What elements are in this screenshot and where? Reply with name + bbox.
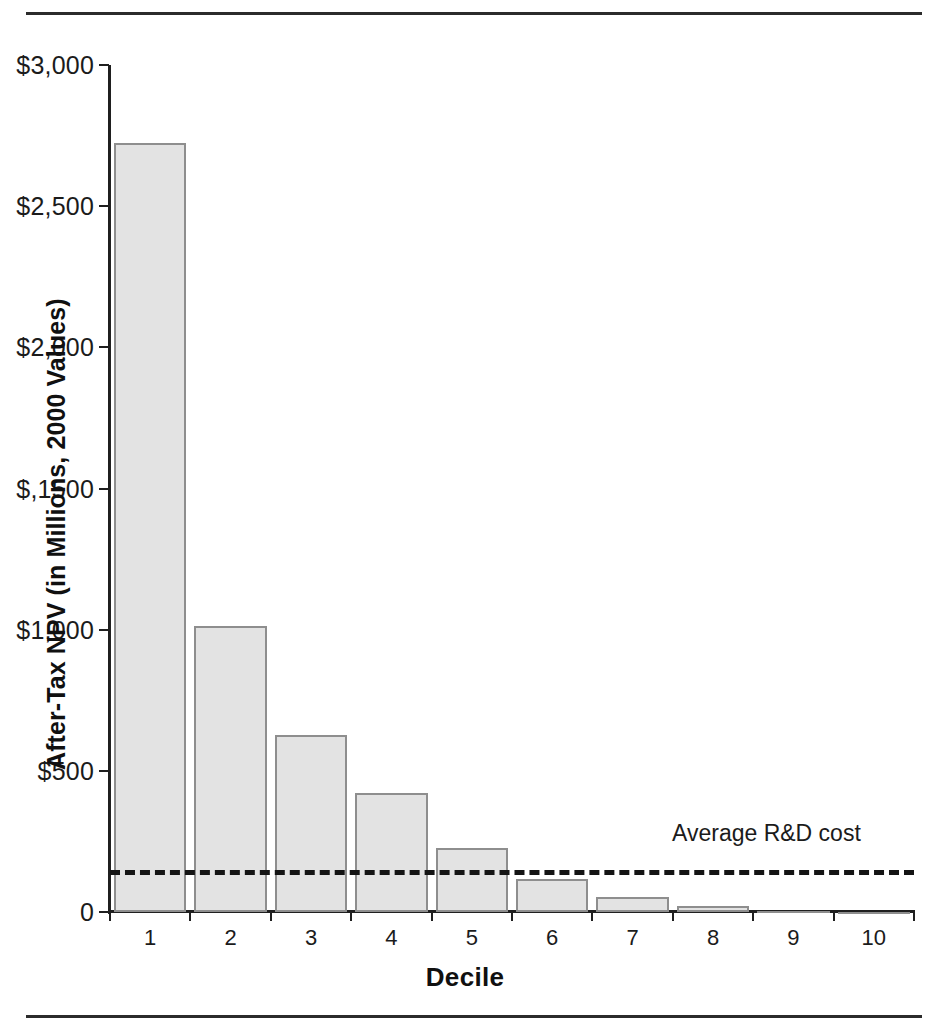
y-axis-tick-label: $2,500 (16, 192, 94, 221)
x-axis-tick (431, 910, 433, 921)
y-axis-tick (99, 64, 109, 66)
x-axis-tick (913, 910, 915, 921)
x-axis-tick-label: 7 (626, 925, 638, 951)
y-axis-tick (99, 770, 109, 772)
x-axis-tick (752, 910, 754, 921)
y-axis-tick (99, 346, 109, 348)
y-axis-line (108, 65, 111, 914)
x-axis-tick-label: 5 (466, 925, 478, 951)
plot-area: 0$500$1,000$,1500$2,000$2,500$3,000 1234… (0, 0, 930, 1033)
y-axis-title: After-Tax NPV (in Millions, 2000 Values) (42, 298, 71, 770)
average-rd-cost-label: Average R&D cost (672, 820, 861, 847)
bar-decile-8 (677, 906, 749, 912)
bar-decile-1 (114, 143, 186, 912)
y-axis-tick-label: 0 (80, 898, 94, 927)
y-axis-tick-label: $3,000 (16, 51, 94, 80)
x-axis-tick (350, 910, 352, 921)
x-axis-tick (109, 910, 111, 921)
x-axis-tick (833, 910, 835, 921)
y-axis-tick (99, 911, 109, 913)
bar-decile-9 (757, 911, 829, 913)
x-axis-tick (270, 910, 272, 921)
x-axis-title: Decile (0, 962, 930, 993)
x-axis-tick-label: 4 (385, 925, 397, 951)
average-rd-cost-line (110, 870, 914, 875)
x-axis-tick-label: 9 (787, 925, 799, 951)
bar-decile-10 (838, 912, 910, 914)
x-axis-tick-label: 2 (224, 925, 236, 951)
y-axis-tick (99, 488, 109, 490)
bar-decile-3 (275, 735, 347, 912)
y-axis-tick (99, 629, 109, 631)
x-axis-tick (511, 910, 513, 921)
figure-container: 0$500$1,000$,1500$2,000$2,500$3,000 1234… (0, 0, 930, 1033)
y-axis-tick (99, 205, 109, 207)
x-axis-tick (189, 910, 191, 921)
x-axis-tick (591, 910, 593, 921)
bar-decile-4 (355, 793, 427, 912)
bar-decile-7 (596, 897, 668, 912)
x-axis-tick-label: 1 (144, 925, 156, 951)
x-axis-tick-label: 3 (305, 925, 317, 951)
x-axis-tick-label: 8 (707, 925, 719, 951)
x-axis-tick-label: 10 (862, 925, 886, 951)
bar-decile-6 (516, 879, 588, 912)
x-axis-tick (672, 910, 674, 921)
bar-decile-5 (436, 848, 508, 912)
x-axis-tick-label: 6 (546, 925, 558, 951)
